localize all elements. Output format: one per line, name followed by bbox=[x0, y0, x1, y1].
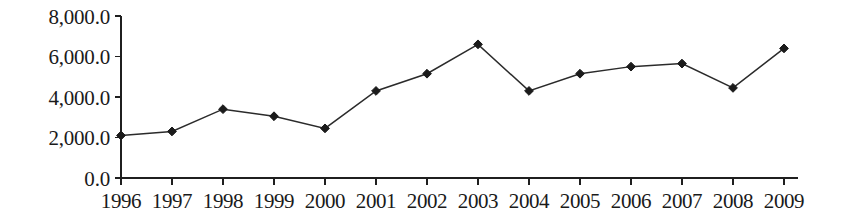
x-tick-label: 2000 bbox=[305, 189, 345, 213]
x-tick-label: 2002 bbox=[407, 189, 447, 213]
data-point-marker bbox=[423, 69, 432, 78]
data-point-marker bbox=[270, 112, 279, 121]
x-tick-label: 1998 bbox=[203, 189, 243, 213]
data-series bbox=[117, 40, 789, 140]
y-tick-label: 2,000.0 bbox=[48, 126, 110, 150]
x-tick-label: 2009 bbox=[764, 189, 804, 213]
y-tick-label: 6,000.0 bbox=[48, 45, 110, 69]
data-point-marker bbox=[627, 62, 636, 71]
series-line bbox=[121, 44, 784, 135]
x-tick-label: 1997 bbox=[152, 189, 192, 213]
data-point-marker bbox=[219, 105, 228, 114]
data-point-marker bbox=[576, 69, 585, 78]
y-tick-label: 0.0 bbox=[84, 167, 110, 191]
x-tick-label: 2003 bbox=[458, 189, 498, 213]
y-tick-label: 4,000.0 bbox=[48, 86, 110, 110]
line-chart: 0.02,000.04,000.06,000.08,000.0 19961997… bbox=[0, 0, 841, 224]
x-axis: 1996199719981999200020012002200320042005… bbox=[101, 178, 804, 213]
x-tick-label: 2008 bbox=[713, 189, 753, 213]
x-tick-label: 1996 bbox=[101, 189, 141, 213]
x-tick-label: 2005 bbox=[560, 189, 600, 213]
x-tick-label: 2004 bbox=[509, 189, 550, 213]
y-axis: 0.02,000.04,000.06,000.08,000.0 bbox=[48, 5, 121, 191]
x-tick-label: 2006 bbox=[611, 189, 651, 213]
x-tick-label: 2001 bbox=[356, 189, 396, 213]
data-point-marker bbox=[678, 59, 687, 68]
x-tick-label: 1999 bbox=[254, 189, 294, 213]
data-point-marker bbox=[168, 127, 177, 136]
chart-canvas: 0.02,000.04,000.06,000.08,000.0 19961997… bbox=[0, 0, 841, 224]
y-tick-label: 8,000.0 bbox=[48, 5, 110, 29]
data-point-marker bbox=[117, 131, 126, 140]
x-tick-label: 2007 bbox=[662, 189, 702, 213]
